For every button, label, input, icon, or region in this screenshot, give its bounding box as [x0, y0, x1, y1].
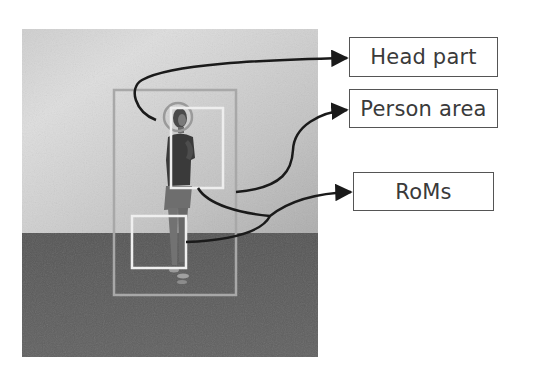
label-roms-text: RoMs: [395, 180, 451, 204]
label-roms: RoMs: [353, 172, 494, 211]
label-head-part: Head part: [349, 37, 498, 77]
label-person-area: Person area: [349, 89, 498, 128]
label-head-part-text: Head part: [370, 45, 476, 69]
label-person-area-text: Person area: [360, 97, 486, 121]
photo: [22, 29, 318, 357]
